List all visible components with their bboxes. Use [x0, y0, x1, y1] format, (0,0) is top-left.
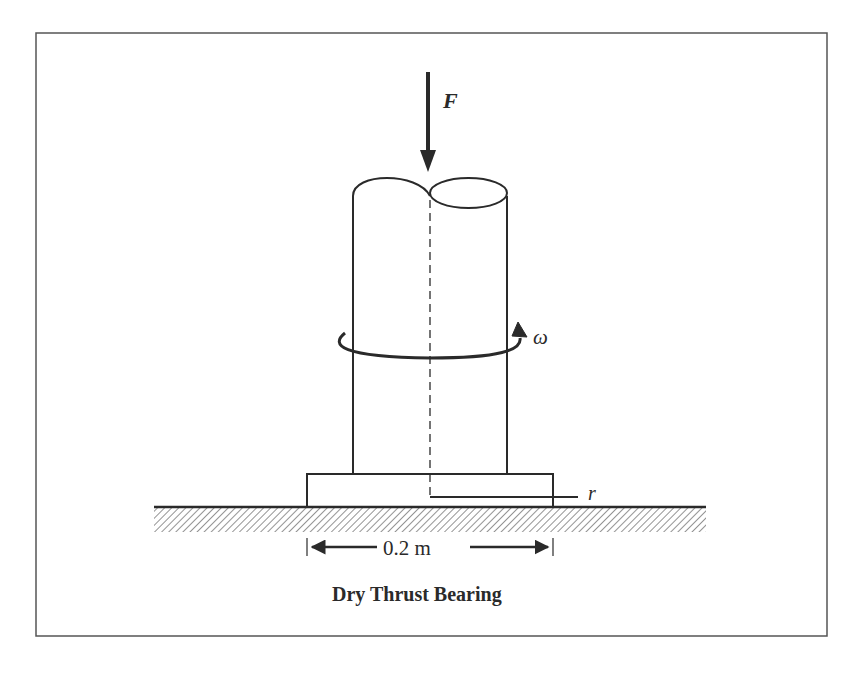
angular-velocity-label: ω	[533, 325, 548, 350]
rotation-arrow	[339, 322, 527, 358]
force-label: F	[443, 88, 458, 114]
force-arrow	[420, 72, 436, 172]
radius-label: r	[588, 482, 596, 505]
ground-hatch	[154, 508, 706, 532]
thrust-bearing-diagram	[0, 0, 865, 678]
shaft-cylinder	[353, 178, 507, 474]
diameter-label: 0.2 m	[377, 536, 437, 561]
figure-caption: Dry Thrust Bearing	[332, 583, 502, 606]
